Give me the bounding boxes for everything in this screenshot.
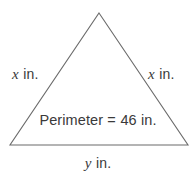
left-side-variable: x — [12, 66, 19, 82]
geometry-figure: x in. x in. Perimeter = 46 in. y in. — [0, 0, 196, 178]
perimeter-unit: in. — [141, 112, 157, 128]
base-variable: y — [85, 155, 92, 171]
perimeter-label: Perimeter = 46 in. — [0, 113, 196, 128]
right-side-label: x in. — [148, 66, 174, 82]
perimeter-value: 46 — [120, 112, 136, 128]
left-side-unit: in. — [23, 66, 38, 82]
right-side-unit: in. — [159, 66, 174, 82]
base-label: y in. — [0, 155, 196, 171]
right-side-variable: x — [148, 66, 155, 82]
perimeter-equals-sign: = — [107, 112, 116, 128]
base-unit: in. — [96, 155, 111, 171]
triangle-shape — [0, 0, 196, 178]
left-side-label: x in. — [12, 66, 38, 82]
perimeter-name: Perimeter — [39, 112, 103, 128]
